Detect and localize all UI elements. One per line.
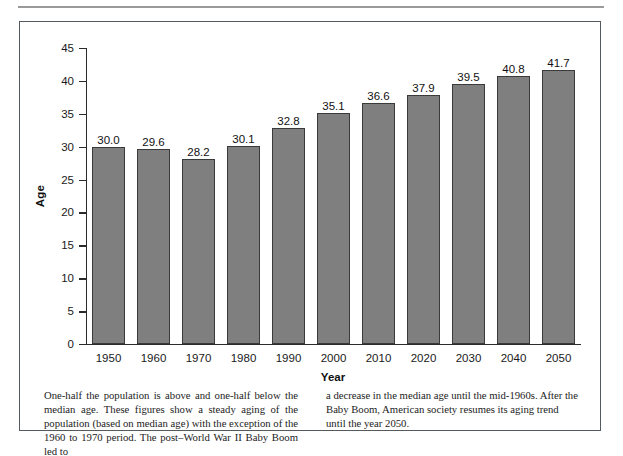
y-axis-tick-mark <box>79 245 86 246</box>
bar: 40.8 <box>497 76 529 344</box>
x-axis-tick-label: 1980 <box>231 352 257 364</box>
y-axis-tick-mark <box>79 344 86 345</box>
bar: 28.2 <box>182 159 214 344</box>
x-axis-tick-label: 2030 <box>456 352 482 364</box>
x-axis-tick-label: 2040 <box>501 352 527 364</box>
bar: 35.1 <box>317 113 349 344</box>
bar: 30.1 <box>227 146 259 344</box>
y-axis-tick-label: 5 <box>68 305 74 317</box>
y-axis-tick-label: 15 <box>61 239 74 251</box>
y-axis-tick-mark <box>79 48 86 49</box>
bar-value-label: 30.1 <box>232 133 254 145</box>
x-axis-tick-label: 2050 <box>546 352 572 364</box>
figure-caption: One-half the population is above and one… <box>20 388 602 432</box>
bar-chart-plot-area: 051015202530354045 Age 30.029.628.230.13… <box>20 22 602 374</box>
bar: 41.7 <box>542 70 574 344</box>
bar: 29.6 <box>137 149 169 344</box>
x-axis-tick-label: 1960 <box>141 352 167 364</box>
bar-value-label: 30.0 <box>97 134 119 146</box>
y-axis-tick-label: 30 <box>61 141 74 153</box>
bar: 32.8 <box>272 128 304 344</box>
bar-value-label: 32.8 <box>277 115 299 127</box>
x-axis-tick-label: 1950 <box>96 352 122 364</box>
y-axis-tick-mark <box>79 180 86 181</box>
bar: 37.9 <box>407 95 439 344</box>
bar: 39.5 <box>452 84 484 344</box>
y-axis-tick-mark <box>79 278 86 279</box>
y-axis-tick-label: 25 <box>61 174 74 186</box>
bar-value-label: 35.1 <box>322 100 344 112</box>
x-axis-tick-label: 2000 <box>321 352 347 364</box>
x-axis-title: Year <box>321 371 345 383</box>
y-axis-title: Age <box>34 185 46 207</box>
bar-value-label: 36.6 <box>367 90 389 102</box>
caption-column-left: One-half the population is above and one… <box>44 388 298 432</box>
figure-container: 051015202530354045 Age 30.029.628.230.13… <box>19 21 601 431</box>
y-axis-tick-mark <box>79 147 86 148</box>
y-axis-tick-mark <box>79 212 86 213</box>
y-axis-tick-label: 45 <box>61 42 74 54</box>
caption-column-right: a decrease in the median age until the m… <box>326 388 580 432</box>
bar-value-label: 29.6 <box>142 136 164 148</box>
y-axis-tick-mark <box>79 311 86 312</box>
x-axis-tick-label: 1970 <box>186 352 212 364</box>
y-axis-tick-label: 40 <box>61 75 74 87</box>
x-axis-line <box>86 344 581 345</box>
y-axis-tick-label: 20 <box>61 206 74 218</box>
y-axis-tick-label: 0 <box>68 338 74 350</box>
x-axis-tick-label: 1990 <box>276 352 302 364</box>
bar-value-label: 28.2 <box>187 146 209 158</box>
bar-value-label: 37.9 <box>412 82 434 94</box>
y-axis-tick-mark <box>79 81 86 82</box>
bar-value-label: 40.8 <box>502 63 524 75</box>
y-axis-line <box>86 48 87 345</box>
top-divider-rule <box>18 6 604 8</box>
x-axis-tick-label: 2010 <box>366 352 392 364</box>
bar-value-label: 41.7 <box>547 57 569 69</box>
y-axis-tick-label: 10 <box>61 272 74 284</box>
x-axis-tick-label: 2020 <box>411 352 437 364</box>
bar: 30.0 <box>92 147 124 344</box>
y-axis-tick-mark <box>79 114 86 115</box>
bar-value-label: 39.5 <box>457 71 479 83</box>
y-axis-tick-label: 35 <box>61 108 74 120</box>
bar: 36.6 <box>362 103 394 344</box>
